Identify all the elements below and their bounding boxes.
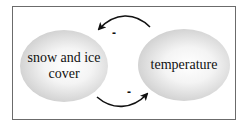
arrow-temperature-to-snow — [99, 16, 150, 29]
arrow-snow-to-temperature — [97, 94, 147, 106]
sign-minus-top: - — [112, 26, 116, 40]
sign-minus-bottom: - — [127, 85, 131, 99]
feedback-arrows: - - — [0, 0, 248, 129]
